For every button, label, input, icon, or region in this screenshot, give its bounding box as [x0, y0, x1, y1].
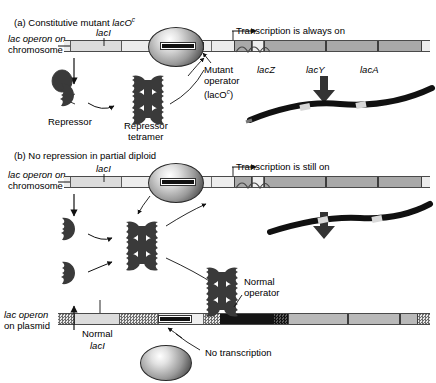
panel-a-heading-gene: lacO — [112, 17, 132, 28]
panel-b-normal-laci-line1: Normal — [82, 328, 113, 339]
plasmid-promoter-core — [160, 317, 190, 321]
panel-a-operator-core-front — [162, 44, 194, 48]
plasmid-laca-segment — [400, 314, 418, 324]
panel-b-heading: (b) No repression in partial diploid — [14, 150, 156, 161]
panel-a-transcription-label: Transcription is always on — [236, 25, 345, 36]
plasmid-lacy-segment — [348, 314, 400, 324]
panel-a-operator-label-open: (lacO — [204, 89, 227, 100]
panel-b-no-transcription-label: No transcription — [205, 347, 272, 358]
plasmid-lacz-segment — [288, 314, 348, 324]
panel-b-transcription-label: Transcription is still on — [236, 161, 330, 172]
panel-b-normal-operator-line1: Normal — [244, 276, 275, 287]
panel-b-spacer-segment — [252, 177, 264, 187]
figure-canvas: (a) Constitutive mutant lacOc lac operon… — [0, 0, 436, 383]
panel-a-lacz-segment — [264, 41, 326, 51]
panel-a-heading: (a) Constitutive mutant lacOc — [14, 14, 135, 28]
plasmid-backbone-right — [418, 314, 430, 324]
panel-b-row-label-line1: lac operon on — [8, 169, 66, 180]
panel-a-repressor-label: Repressor — [48, 116, 92, 127]
panel-a-operator-label-line1: Mutant — [204, 64, 233, 75]
panel-a-laca-segment — [378, 41, 422, 51]
panel-a-tetramer-label-line1: Repressor — [124, 120, 168, 131]
panel-b-laca-segment — [378, 177, 422, 187]
panel-b-normal-laci-line2: lacI — [90, 340, 105, 351]
panel-b-chromosome-bar — [64, 176, 430, 188]
panel-b-repressor-tetramer — [126, 221, 158, 270]
plasmid-operator-segment — [220, 314, 274, 324]
panel-b-laci-label: lacI — [96, 163, 111, 174]
panel-b-normal-operator-line2: operator — [244, 287, 279, 298]
panel-a-laci-segment — [70, 41, 122, 51]
panel-a-operator-label-line3: (lacOc) — [204, 86, 233, 100]
panel-b-heading-text: No repression in partial diploid — [28, 150, 156, 161]
panel-b-lacz-segment — [264, 177, 326, 187]
plasmid-operator-edge — [274, 314, 288, 324]
panel-a-operator-segment — [234, 41, 252, 51]
panel-a-operator-label-line2: operator — [204, 75, 239, 86]
panel-a-chromosome-bar — [64, 40, 430, 52]
figure-overlay — [0, 0, 436, 383]
panel-a-row-label-line2: chromosome — [8, 44, 63, 55]
plasmid-spacer-1 — [120, 314, 158, 324]
plasmid-spacer-2 — [204, 314, 220, 324]
panel-b-operator-segment — [234, 177, 252, 187]
plasmid-laci-segment — [74, 314, 120, 324]
panel-b-row-label-line2: chromosome — [8, 180, 63, 191]
panel-b-plasmid-bar — [58, 313, 430, 325]
panel-b-lacy-segment — [326, 177, 378, 187]
panel-a-row-label-line1: lac operon on — [8, 33, 66, 44]
panel-b-heading-prefix: (b) — [14, 150, 26, 161]
panel-a-operator-label-close: ) — [230, 89, 233, 100]
panel-b-operator-core — [162, 180, 194, 184]
panel-a-heading-prefix: (a) — [14, 17, 26, 28]
panel-a-laci-label: lacI — [96, 27, 111, 38]
panel-a-protein-strand — [246, 88, 432, 122]
panel-a-gene-label-laca: lacA — [360, 64, 378, 75]
panel-a-spacer-segment — [252, 41, 264, 51]
panel-a-gene-label-lacz: lacZ — [257, 64, 275, 75]
plasmid-bound-tetramer — [206, 267, 238, 316]
plasmid-backbone-left — [58, 314, 74, 324]
panel-b-blocked-polymerase — [140, 345, 192, 381]
panel-a-lacy-segment — [326, 41, 378, 51]
panel-b-translation-arrow — [313, 212, 335, 239]
panel-b-plasmid-label-line2: on plasmid — [4, 320, 50, 331]
panel-a-tetramer-label-line2: tetramer — [128, 131, 163, 142]
panel-a-heading-sup: c — [132, 16, 135, 23]
panel-a-translation-arrow — [313, 76, 335, 103]
panel-b-laci-segment — [70, 177, 122, 187]
panel-b-plasmid-label-line1: lac operon — [4, 309, 48, 320]
panel-b-protein-strand — [270, 204, 430, 232]
panel-a-gene-label-lacy: lacY — [306, 64, 324, 75]
